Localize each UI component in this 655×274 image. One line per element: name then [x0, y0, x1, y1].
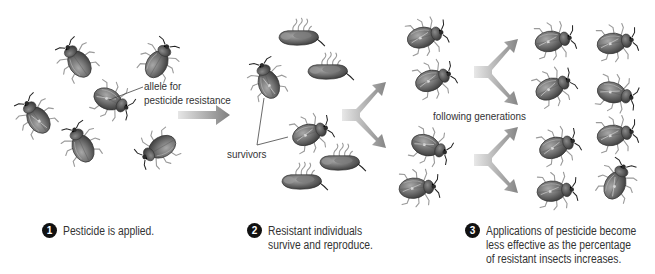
beetle-icon: [50, 32, 104, 86]
step-1-caption: 1 Pesticide is applied.: [42, 224, 169, 238]
resistant-beetle-icon: [529, 61, 581, 112]
resistant-beetle-icon: [594, 21, 640, 65]
resistant-beetle-icon: [403, 13, 451, 59]
step-text-line: of resistant insects increases.: [486, 252, 636, 266]
arrow-right-icon: [178, 105, 230, 125]
step-number-badge: 1: [42, 223, 57, 238]
step-text-line: survive and reproduce.: [268, 238, 373, 252]
dead-beetle-icon: [308, 52, 354, 80]
resistant-beetle-icon: [594, 113, 640, 157]
survivor-beetle-icon: [243, 54, 292, 104]
step-text-line: Pesticide is applied.: [63, 224, 154, 238]
later-generations-population: [529, 19, 643, 212]
dead-beetle-icon: [320, 143, 366, 171]
resistant-beetle-icon: [592, 154, 643, 206]
beetle-icon: [55, 117, 106, 169]
resistant-beetle-icon: [532, 19, 578, 63]
step-number-badge: 2: [247, 223, 262, 238]
step-2-caption: 2 Resistant individuals survive and repr…: [247, 224, 390, 252]
step-text-line: Applications of pesticide become: [486, 224, 636, 238]
allele-label-line1: allele for: [144, 80, 181, 93]
survivor-beetle-icon: [287, 109, 337, 158]
resistant-beetle-icon: [593, 71, 641, 117]
step-2-text: Resistant individuals survive and reprod…: [268, 224, 373, 252]
step-text-line: Resistant individuals: [268, 224, 373, 238]
step-3-caption: 3 Applications of pesticide become less …: [465, 224, 655, 266]
allele-label-line2: pesticide resistance: [144, 94, 231, 107]
resistant-beetle-icon: [534, 122, 584, 171]
step-text-line: less effective as the percentage: [486, 238, 636, 252]
following-generations-label: following generations: [433, 110, 526, 123]
resistant-beetle-icon: [410, 55, 460, 104]
beetle-icon: [133, 33, 185, 86]
step-3-text: Applications of pesticide become less ef…: [486, 224, 636, 266]
dead-beetle-icon: [279, 18, 325, 46]
step-number-badge: 3: [465, 223, 480, 238]
resistant-beetle-icon: [87, 76, 139, 127]
dead-beetle-icon: [282, 162, 328, 190]
after-pesticide-population: [243, 18, 366, 190]
resistant-beetle-icon: [9, 88, 63, 142]
fork-arrow-icon: [474, 127, 518, 193]
survivors-label: survivors: [227, 148, 267, 161]
beetle-icon: [131, 123, 184, 175]
resistant-beetle-icon: [535, 170, 578, 211]
resistant-beetle-icon: [406, 123, 456, 172]
fork-arrow-icon: [342, 82, 386, 148]
survivors-pointer-lines: [257, 98, 288, 145]
resistant-beetle-icon: [397, 167, 440, 208]
fork-arrow-icon: [474, 39, 518, 105]
step-1-text: Pesticide is applied.: [63, 224, 154, 238]
